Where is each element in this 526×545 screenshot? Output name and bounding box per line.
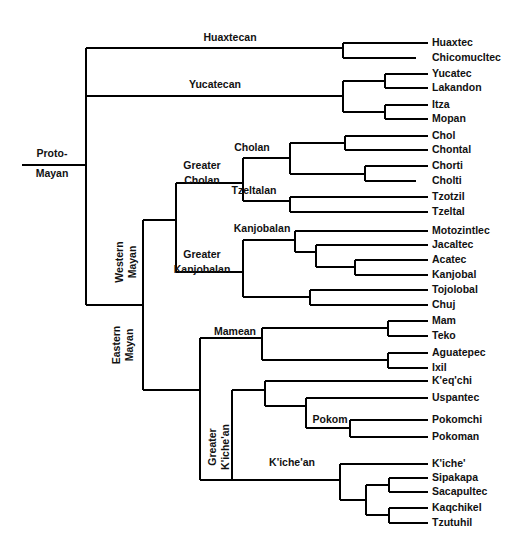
node-label-greater-k-iche-an-line2: K'iche'an bbox=[219, 424, 231, 470]
leaf-label-itza: Itza bbox=[432, 98, 450, 110]
leaf-label-chorti: Chorti bbox=[432, 159, 463, 171]
leaf-label-motozintlec: Motozintlec bbox=[432, 224, 490, 236]
cladogram-figure: HuaxtecChicomucltecYucatecLakandonItzaMo… bbox=[0, 0, 526, 545]
leaf-label-chontal: Chontal bbox=[432, 143, 471, 155]
node-label-huaxtecan: Huaxtecan bbox=[203, 31, 256, 43]
leaf-label-kanjobal: Kanjobal bbox=[432, 268, 476, 280]
node-label-k-iche-an: K'iche'an bbox=[269, 456, 315, 468]
leaf-label-kaqchikel: Kaqchikel bbox=[432, 501, 482, 513]
node-label-greater-k-iche-an-line1: Greater bbox=[206, 428, 218, 465]
node-label-eastern-mayan-line2: Mayan bbox=[123, 329, 135, 362]
leaf-label-tzotzil: Tzotzil bbox=[432, 190, 465, 202]
leaf-label-sacapultec: Sacapultec bbox=[432, 485, 488, 497]
node-label-greater-cholan-line2: Cholan bbox=[184, 174, 220, 186]
node-label-yucatecan-line1: Yucatecan bbox=[189, 78, 241, 90]
node-label-western-mayan-line1: Western bbox=[113, 241, 125, 282]
root-label-line2: Mayan bbox=[36, 167, 69, 179]
node-label-tzeltalan: Tzeltalan bbox=[232, 184, 277, 196]
node-label-k-iche-an-line1: K'iche'an bbox=[269, 456, 315, 468]
node-label-yucatecan: Yucatecan bbox=[189, 78, 241, 90]
leaf-label-tojolobal: Tojolobal bbox=[432, 283, 478, 295]
leaf-label-mam: Mam bbox=[432, 314, 456, 326]
node-label-cholan: Cholan bbox=[234, 141, 270, 153]
node-label-mameanic-line1: Mamean bbox=[214, 325, 256, 337]
leaf-label-acatec: Acatec bbox=[432, 253, 467, 265]
node-label-kanjobalan: Kanjobalan bbox=[234, 222, 291, 234]
node-label-western-mayan-line2: Mayan bbox=[126, 246, 138, 279]
root-label-line1: Proto- bbox=[37, 147, 68, 159]
node-label-cholan-line1: Cholan bbox=[234, 141, 270, 153]
leaf-label-uspantec: Uspantec bbox=[432, 391, 479, 403]
leaf-label-chol: Chol bbox=[432, 129, 455, 141]
leaf-label-pokomchi: Pokomchi bbox=[432, 413, 482, 425]
leaf-label-chicomucltec: Chicomucltec bbox=[432, 51, 501, 63]
leaf-label-k-eq-chi: K'eq'chi bbox=[432, 374, 472, 386]
mayan-language-tree: HuaxtecChicomucltecYucatecLakandonItzaMo… bbox=[0, 0, 526, 545]
leaf-label-k-iche-: K'iche' bbox=[432, 457, 466, 469]
node-label-western-mayan: WesternMayan bbox=[113, 241, 138, 282]
leaf-label-aguatepec: Aguatepec bbox=[432, 346, 486, 358]
leaf-label-yucatec: Yucatec bbox=[432, 67, 472, 79]
node-label-greater-kanjobalan-line1: Greater bbox=[183, 248, 220, 260]
node-label-kanjobalan-line1: Kanjobalan bbox=[234, 222, 291, 234]
leaf-label-tzeltal: Tzeltal bbox=[432, 205, 465, 217]
node-label-huaxtecan-line1: Huaxtecan bbox=[203, 31, 256, 43]
leaf-label-teko: Teko bbox=[432, 329, 456, 341]
node-label-eastern-mayan-line1: Eastern bbox=[110, 326, 122, 365]
leaf-label-tzutuhil: Tzutuhil bbox=[432, 516, 472, 528]
leaf-label-cholti: Cholti bbox=[432, 174, 462, 186]
node-label-tzeltalan-line1: Tzeltalan bbox=[232, 184, 277, 196]
node-label-pokom: Pokom bbox=[312, 413, 347, 425]
leaf-label-huaxtec: Huaxtec bbox=[432, 36, 473, 48]
leaf-label-jacaltec: Jacaltec bbox=[432, 238, 474, 250]
leaf-label-pokoman: Pokoman bbox=[432, 430, 479, 442]
node-label-eastern-mayan: EasternMayan bbox=[110, 326, 135, 365]
node-label-greater-k-iche-an: GreaterK'iche'an bbox=[206, 424, 231, 470]
leaf-label-ixil: Ixil bbox=[432, 361, 447, 373]
node-label-mameanic: Mamean bbox=[214, 325, 256, 337]
leaf-label-chuj: Chuj bbox=[432, 298, 455, 310]
node-label-pokom-line1: Pokom bbox=[312, 413, 347, 425]
leaf-label-sipakapa: Sipakapa bbox=[432, 471, 478, 483]
node-label-greater-cholan-line1: Greater bbox=[183, 159, 220, 171]
leaf-label-lakandon: Lakandon bbox=[432, 81, 482, 93]
node-label-greater-kanjobalan-line2: Kanjobalan bbox=[174, 263, 231, 275]
leaf-label-mopan: Mopan bbox=[432, 112, 466, 124]
